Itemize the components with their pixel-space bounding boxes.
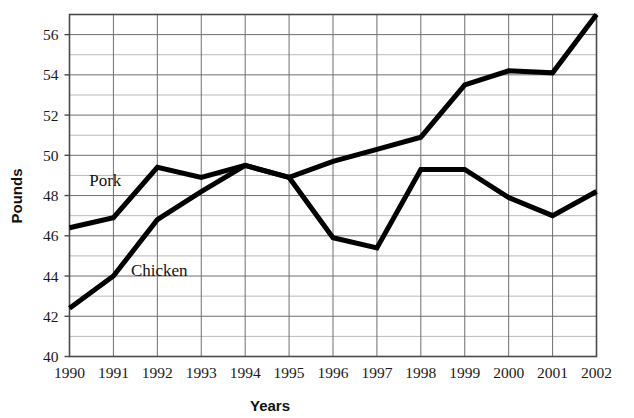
x-tick-label-1992: 1992: [142, 364, 173, 381]
y-tick-label-56: 56: [43, 26, 59, 43]
y-tick-label-54: 54: [43, 66, 59, 83]
y-tick-label-50: 50: [43, 147, 59, 164]
y-tick-label-46: 46: [43, 227, 59, 244]
y-tick-label-52: 52: [43, 107, 59, 124]
x-tick-label-1991: 1991: [98, 364, 129, 381]
x-tick-label-1998: 1998: [405, 364, 436, 381]
x-tick-label-1994: 1994: [230, 364, 261, 381]
x-tick-label-1999: 1999: [449, 364, 480, 381]
y-axis-title: Pounds: [8, 169, 25, 224]
x-tick-label-1990: 1990: [54, 364, 85, 381]
x-axis-title: Years: [250, 397, 290, 414]
y-tick-label-40: 40: [43, 348, 59, 365]
x-tick-label-1995: 1995: [274, 364, 305, 381]
x-tick-label-1996: 1996: [318, 364, 349, 381]
x-tick-label-2001: 2001: [537, 364, 568, 381]
chart-canvas: 404244464850525456 199019911992199319941…: [0, 0, 634, 418]
series-label-chicken: Chicken: [131, 261, 188, 280]
y-axis-tick-labels: 404244464850525456: [43, 26, 59, 365]
y-tick-label-44: 44: [43, 268, 59, 285]
x-tick-label-2002: 2002: [581, 364, 612, 381]
series-label-pork: Pork: [89, 171, 122, 190]
line-chart: 404244464850525456 199019911992199319941…: [0, 0, 634, 418]
x-tick-label-2000: 2000: [493, 364, 524, 381]
x-tick-label-1997: 1997: [361, 364, 392, 381]
y-tick-label-48: 48: [43, 187, 59, 204]
x-tick-label-1993: 1993: [186, 364, 217, 381]
y-tick-label-42: 42: [43, 308, 59, 325]
